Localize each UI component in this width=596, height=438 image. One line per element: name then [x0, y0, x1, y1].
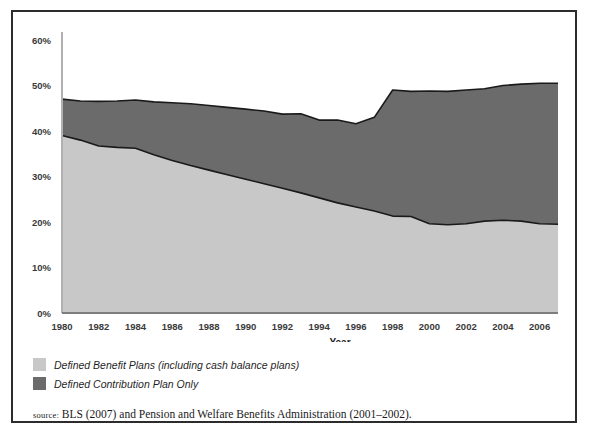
legend-label-defined-benefit: Defined Benefit Plans (including cash ba… [54, 359, 299, 371]
y-axis-tick-label: 0% [37, 308, 51, 319]
stacked-area-chart: 0%10%20%30%40%50%60% 1980198219841986198… [13, 12, 575, 342]
x-axis-tick-label: 1990 [235, 321, 256, 332]
legend-swatch-defined-contribution [33, 377, 46, 390]
y-axis-tick-label: 30% [32, 171, 52, 182]
y-axis-tick-label: 20% [32, 217, 52, 228]
chart-plot-area: 0%10%20%30%40%50%60% 1980198219841986198… [13, 12, 575, 342]
legend-item-defined-benefit: Defined Benefit Plans (including cash ba… [33, 356, 553, 373]
x-axis-title: Year [329, 337, 350, 342]
x-axis-tick-label: 1998 [382, 321, 403, 332]
x-axis-tick-labels: 1980198219841986198819901992199419961998… [51, 321, 550, 332]
x-axis-tick-label: 1996 [345, 321, 366, 332]
y-axis-tick-label: 40% [32, 126, 52, 137]
x-axis-tick-label: 1980 [51, 321, 72, 332]
source-note-text: BLS (2007) and Pension and Welfare Benef… [59, 408, 412, 420]
x-axis-tick-label: 1994 [309, 321, 331, 332]
y-axis-tick-label: 60% [32, 35, 52, 46]
x-axis-tick-label: 2000 [419, 321, 440, 332]
x-axis-tick-label: 1982 [88, 321, 109, 332]
legend-item-defined-contribution: Defined Contribution Plan Only [33, 375, 553, 392]
x-axis-tick-label: 1984 [125, 321, 147, 332]
x-axis-tick-label: 2004 [492, 321, 514, 332]
y-axis-tick-label: 50% [32, 80, 52, 91]
y-axis-tick-labels: 0%10%20%30%40%50%60% [32, 35, 52, 319]
legend-label-defined-contribution: Defined Contribution Plan Only [54, 378, 198, 390]
chart-legend: Defined Benefit Plans (including cash ba… [33, 356, 553, 394]
source-note-prefix: source: [33, 410, 59, 420]
x-axis-tick-label: 1992 [272, 321, 293, 332]
x-axis-tick-label: 1988 [198, 321, 219, 332]
figure-frame: 0%10%20%30%40%50%60% 1980198219841986198… [11, 10, 577, 423]
x-axis-tick-label: 1986 [162, 321, 183, 332]
source-note: source: BLS (2007) and Pension and Welfa… [33, 408, 563, 420]
x-axis-tick-label: 2002 [456, 321, 477, 332]
x-axis-tick-label: 2006 [529, 321, 550, 332]
legend-swatch-defined-benefit [33, 358, 46, 371]
y-axis-tick-label: 10% [32, 262, 52, 273]
